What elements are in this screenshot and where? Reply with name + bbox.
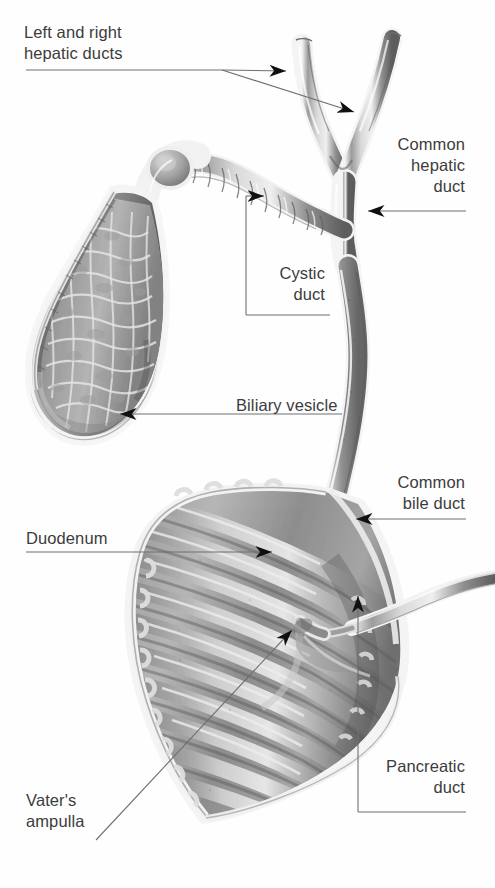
label-cystic-duct: Cystic duct — [190, 263, 325, 305]
label-vaters-ampulla: Vater's ampulla — [26, 790, 186, 832]
label-left-right-hepatic-ducts: Left and right hepatic ducts — [24, 22, 224, 64]
gallbladder-structure — [27, 185, 169, 445]
label-common-bile-duct: Common bile duct — [290, 472, 465, 514]
label-common-hepatic-duct: Common hepatic duct — [290, 134, 465, 197]
label-biliary-vesicle: Biliary vesicle — [236, 395, 436, 416]
label-pancreatic-duct: Pancreatic duct — [300, 756, 465, 798]
gallbladder-neck — [146, 148, 198, 196]
anatomy-figure: Left and right hepatic ducts Common hepa… — [0, 0, 495, 888]
label-duodenum: Duodenum — [26, 528, 186, 549]
